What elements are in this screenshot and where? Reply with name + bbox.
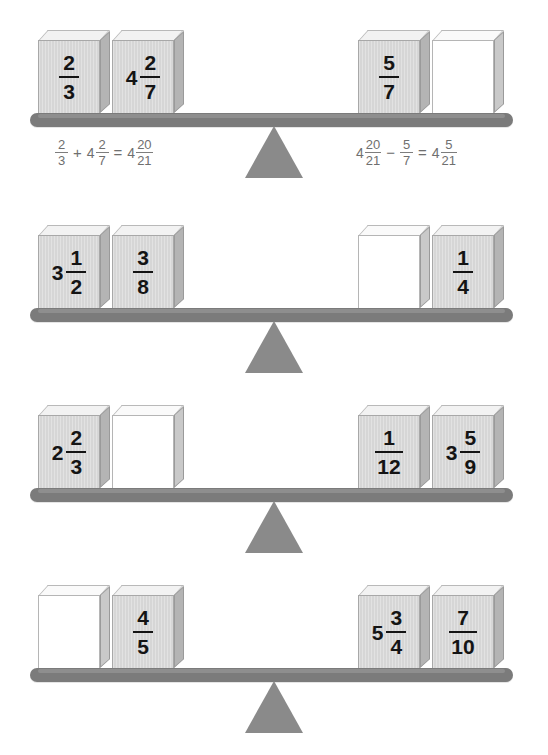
row-2-right-block-1-fraction-bar bbox=[460, 451, 480, 453]
row-3-left-block-1-side-face bbox=[174, 586, 184, 668]
row-2-beam-highlight bbox=[38, 489, 505, 493]
row-0-right-equation-term-4-fraction: 521 bbox=[441, 138, 457, 167]
row-3-left-block-0-blank[interactable] bbox=[38, 585, 112, 675]
row-3-left-block-1-fraction: 45 bbox=[133, 607, 153, 657]
row-2-left-block-0-front-face: 223 bbox=[38, 415, 100, 489]
row-0-left-equation-term-2-denominator: 7 bbox=[97, 154, 106, 167]
row-2-left-block-0-numerator: 2 bbox=[69, 427, 85, 448]
row-3-left-block-1-denominator: 5 bbox=[135, 636, 151, 657]
row-3-right-block-0-front-face: 534 bbox=[358, 595, 420, 669]
row-0-left-block-1-numerator: 2 bbox=[143, 52, 159, 73]
row-0-beam-highlight bbox=[38, 114, 505, 118]
row-1-right-block-1[interactable]: 14 bbox=[432, 225, 506, 315]
row-0-right-block-0-denominator: 7 bbox=[381, 81, 397, 102]
row-2-left-block-0-fraction: 23 bbox=[66, 427, 86, 477]
row-0-left-equation-term-4-mixed-number: 42021 bbox=[127, 138, 152, 167]
row-0-right-equation-operator-3: = bbox=[418, 144, 427, 161]
row-1-left-block-1-mixed-number: 38 bbox=[133, 247, 153, 297]
row-0-right-equation-term-0-whole-part: 4 bbox=[356, 146, 364, 160]
row-0-left-block-0[interactable]: 23 bbox=[38, 30, 112, 120]
row-0-right-equation-term-4-whole-part: 4 bbox=[432, 146, 440, 160]
row-1-right-block-0-blank[interactable] bbox=[358, 225, 432, 315]
row-1-left-block-0-mixed-number: 312 bbox=[52, 247, 87, 297]
row-3-left-block-0-front-face bbox=[38, 595, 100, 669]
row-0-right-equation-term-2-denominator: 7 bbox=[402, 154, 411, 167]
balance-scale-3: 223112359 bbox=[0, 375, 548, 555]
row-0-left-equation-operator-3: = bbox=[114, 144, 123, 161]
row-1-left-block-1-numerator: 3 bbox=[135, 247, 151, 268]
row-2-right-block-1[interactable]: 359 bbox=[432, 405, 506, 495]
row-0-right-equation-term-0-numerator: 20 bbox=[365, 138, 381, 151]
row-1-left-block-0[interactable]: 312 bbox=[38, 225, 112, 315]
row-0-right-equation-operator-1: − bbox=[386, 144, 395, 161]
row-3-right-block-1-numerator: 7 bbox=[455, 607, 471, 628]
row-3-right-block-1-front-face: 710 bbox=[432, 595, 494, 669]
row-2-right-block-1-side-face bbox=[494, 406, 504, 488]
row-0-right-equation-term-4-numerator: 5 bbox=[444, 138, 453, 151]
row-0-left-equation-term-4-fraction: 2021 bbox=[136, 138, 152, 167]
row-2-right-block-1-whole-part: 3 bbox=[446, 442, 458, 463]
row-2-left-block-0-mixed-number: 223 bbox=[52, 427, 87, 477]
row-0-left-block-0-fraction-bar bbox=[59, 76, 79, 78]
row-2-right-block-0-mixed-number: 112 bbox=[375, 427, 402, 477]
row-3-right-block-0[interactable]: 534 bbox=[358, 585, 432, 675]
row-3-left-block-1[interactable]: 45 bbox=[112, 585, 186, 675]
row-0-left-block-0-side-face bbox=[100, 31, 110, 113]
row-0-left-block-1-whole-part: 4 bbox=[126, 67, 138, 88]
row-1-right-block-1-numerator: 1 bbox=[455, 247, 471, 268]
row-3-right-block-1-side-face bbox=[494, 586, 504, 668]
row-0-right-equation-term-0-fraction: 2021 bbox=[365, 138, 381, 167]
row-1-left-block-1-denominator: 8 bbox=[135, 276, 151, 297]
row-0-beam bbox=[30, 113, 513, 127]
row-3-left-block-1-mixed-number: 45 bbox=[133, 607, 153, 657]
row-0-right-block-0-side-face bbox=[420, 31, 430, 113]
row-0-left-equation-term-4-whole-part: 4 bbox=[127, 146, 135, 160]
row-0-left-block-0-front-face: 23 bbox=[38, 40, 100, 114]
row-1-left-block-0-fraction: 12 bbox=[66, 247, 86, 297]
row-3-right-block-1[interactable]: 710 bbox=[432, 585, 506, 675]
row-2-right-block-0-numerator: 1 bbox=[381, 427, 397, 448]
row-0-left-block-1[interactable]: 427 bbox=[112, 30, 186, 120]
row-0-left-equation-operator-1: + bbox=[73, 144, 82, 161]
row-2-fulcrum-triangle bbox=[245, 501, 303, 553]
row-2-beam bbox=[30, 488, 513, 502]
row-0-right-block-0-fraction-bar bbox=[379, 76, 399, 78]
row-3-right-block-0-fraction-bar bbox=[386, 631, 406, 633]
row-1-left-block-1-fraction: 38 bbox=[133, 247, 153, 297]
row-0-left-block-0-fraction: 23 bbox=[59, 52, 79, 102]
row-1-right-block-1-fraction: 14 bbox=[453, 247, 473, 297]
row-1-right-block-0-side-face bbox=[420, 226, 430, 308]
row-2-left-block-0[interactable]: 223 bbox=[38, 405, 112, 495]
row-0-right-block-1-side-face bbox=[494, 31, 504, 113]
row-0-right-block-1-blank[interactable] bbox=[432, 30, 506, 120]
row-1-right-block-0-front-face bbox=[358, 235, 420, 309]
row-1-left-block-1[interactable]: 38 bbox=[112, 225, 186, 315]
row-1-left-block-1-side-face bbox=[174, 226, 184, 308]
row-3-right-block-0-denominator: 4 bbox=[389, 636, 405, 657]
row-0-left-block-1-denominator: 7 bbox=[143, 81, 159, 102]
row-0-right-block-0-front-face: 57 bbox=[358, 40, 420, 114]
row-0-fulcrum-triangle bbox=[245, 126, 303, 178]
row-1-left-block-0-front-face: 312 bbox=[38, 235, 100, 309]
row-3-beam-highlight bbox=[38, 669, 505, 673]
row-2-left-block-0-fraction-bar bbox=[66, 451, 86, 453]
row-0-right-equation-term-4-denominator: 21 bbox=[441, 154, 457, 167]
row-2-right-block-0-denominator: 12 bbox=[375, 456, 402, 477]
row-3-beam bbox=[30, 668, 513, 682]
row-0-right-block-0[interactable]: 57 bbox=[358, 30, 432, 120]
row-2-left-block-1-blank[interactable] bbox=[112, 405, 186, 495]
row-0-left-block-1-mixed-number: 427 bbox=[126, 52, 161, 102]
row-0-right-equation: 42021−57=4521 bbox=[356, 138, 457, 167]
balance-scale-4: 45534710 bbox=[0, 555, 548, 755]
row-2-right-block-0[interactable]: 112 bbox=[358, 405, 432, 495]
row-1-right-block-1-fraction-bar bbox=[453, 271, 473, 273]
row-3-right-block-0-whole-part: 5 bbox=[372, 622, 384, 643]
row-1-fulcrum-triangle bbox=[245, 321, 303, 373]
row-2-left-block-1-front-face bbox=[112, 415, 174, 489]
row-3-right-block-1-fraction: 710 bbox=[449, 607, 476, 657]
row-0-left-block-1-front-face: 427 bbox=[112, 40, 174, 114]
row-1-left-block-0-denominator: 2 bbox=[69, 276, 85, 297]
row-0-left-block-0-denominator: 3 bbox=[61, 81, 77, 102]
row-3-right-block-0-mixed-number: 534 bbox=[372, 607, 407, 657]
row-0-left-block-0-numerator: 2 bbox=[61, 52, 77, 73]
